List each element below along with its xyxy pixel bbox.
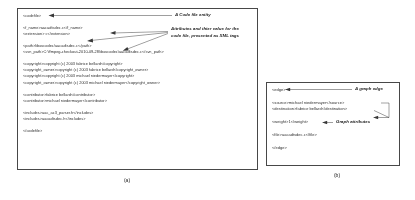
code-line: </codefile> [23,128,254,134]
panel-b-code-listing: <edge> <source>michael niedermayer</sour… [272,87,396,151]
callout-attributes-line1: Attributes and thier value for the [171,26,239,32]
code-line: </edge> [272,145,396,151]
panel-b-edge-xml: <edge> <source>michael niedermayer</sour… [266,82,400,166]
caption-panel-b: (b) [327,172,347,178]
caption-panel-a: (a) [117,177,137,183]
callout-code-file-entity: A Code file entity [175,12,211,18]
callout-graph-attributes: Graph attributes [336,119,370,125]
callout-graph-edge: A graph edge [355,86,383,92]
figure-container: <codefile> <f_name>aacadtsdec.c</f_name>… [0,0,415,200]
callout-attributes-line2: code file, presented as XML tags [171,33,239,39]
